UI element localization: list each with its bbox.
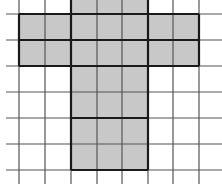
grid-diagram bbox=[0, 0, 222, 191]
grid-shape-figure bbox=[0, 0, 222, 191]
shaded-region-top-arm bbox=[71, 0, 148, 14]
